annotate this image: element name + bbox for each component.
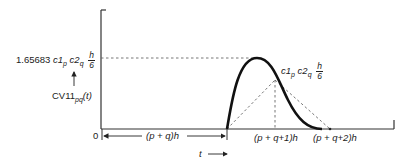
function-label: CV11pq(t) <box>52 91 92 101</box>
time-label: t <box>199 149 202 159</box>
tick2-label: (p + q+2)h <box>313 133 357 143</box>
triangle-dashed-lines <box>227 80 330 129</box>
tick1-label: (p + q+1)h <box>254 133 298 143</box>
y-axis <box>101 10 106 129</box>
peak-value-label: 1.65683 c1p c2q h6 <box>16 51 95 69</box>
apex-value-label: c1p c2q h6 <box>281 62 323 80</box>
origin-label: 0 <box>93 131 98 141</box>
x-axis <box>101 120 394 129</box>
span-label: (p + q)h <box>146 131 179 141</box>
